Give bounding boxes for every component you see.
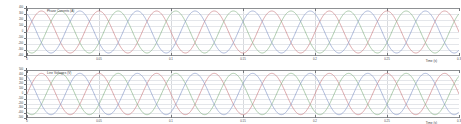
x-axis-tick (459, 115, 460, 118)
scope-figure: 00.050.10.150.20.250.34003002001000-100-… (0, 0, 461, 124)
x-tick-label: 0.3 (457, 58, 461, 61)
x-tick-label: 0.2 (313, 120, 317, 123)
y-tick-label: -100 (18, 37, 23, 40)
waveform-layer-top (27, 8, 459, 56)
x-axis-label-bottom: Time (s) (426, 122, 437, 124)
x-tick-label: 0.25 (384, 120, 389, 123)
x-tick-label: 0.05 (96, 120, 101, 123)
plot-title-bottom: Line Voltages (V) (47, 72, 71, 75)
waveform-trace (27, 11, 459, 53)
x-axis-tick (459, 53, 460, 56)
waveform-svg-bottom (27, 70, 459, 118)
x-tick-label: 0.15 (240, 58, 245, 61)
y-tick-label: -200 (18, 102, 23, 105)
x-axis-tick (459, 8, 460, 11)
y-tick-label: 0 (22, 93, 23, 96)
y-tick-label: -400 (18, 112, 23, 115)
y-tick-label: 0 (22, 31, 23, 34)
x-tick-label: 0.2 (313, 58, 317, 61)
x-tick-label: 0.3 (457, 120, 461, 123)
y-tick-label: -100 (18, 98, 23, 101)
x-tick-label: 0.15 (240, 120, 245, 123)
y-tick-label: 500 (19, 69, 23, 72)
waveform-layer-bottom (27, 70, 459, 118)
x-tick-label: 0.1 (169, 120, 173, 123)
x-tick-label: 0 (26, 120, 28, 123)
waveform-trace (27, 73, 459, 114)
waveform-svg-top (27, 8, 459, 56)
y-axis-tick (24, 118, 27, 119)
y-tick-label: -200 (18, 43, 23, 46)
y-tick-label: -500 (18, 117, 23, 120)
y-tick-label: -300 (18, 107, 23, 110)
x-tick-label: 0.25 (384, 58, 389, 61)
y-tick-label: -400 (18, 55, 23, 58)
plot-title-top: Phase Currents (A) (47, 10, 74, 13)
x-tick-label: 0.05 (96, 58, 101, 61)
y-tick-label: 100 (19, 88, 23, 91)
y-tick-label: -300 (18, 49, 23, 52)
axes-bottom: 00.050.10.150.20.250.35004003002001000-1… (27, 70, 459, 118)
x-tick-label: 0.1 (169, 58, 173, 61)
y-tick-label: 100 (19, 25, 23, 28)
y-tick-label: 400 (19, 7, 23, 10)
y-tick-label: 300 (19, 78, 23, 81)
subplot-bottom: 00.050.10.150.20.250.35004003002001000-1… (0, 62, 461, 124)
subplot-top: 00.050.10.150.20.250.34003002001000-100-… (0, 0, 461, 62)
x-axis-tick (459, 70, 460, 73)
y-tick-label: 200 (19, 19, 23, 22)
y-tick-label: 400 (19, 74, 23, 77)
x-tick-label: 0 (26, 58, 28, 61)
y-axis-tick (24, 56, 27, 57)
axes-top: 00.050.10.150.20.250.34003002001000-100-… (27, 8, 459, 56)
y-tick-label: 300 (19, 13, 23, 16)
y-tick-label: 200 (19, 83, 23, 86)
